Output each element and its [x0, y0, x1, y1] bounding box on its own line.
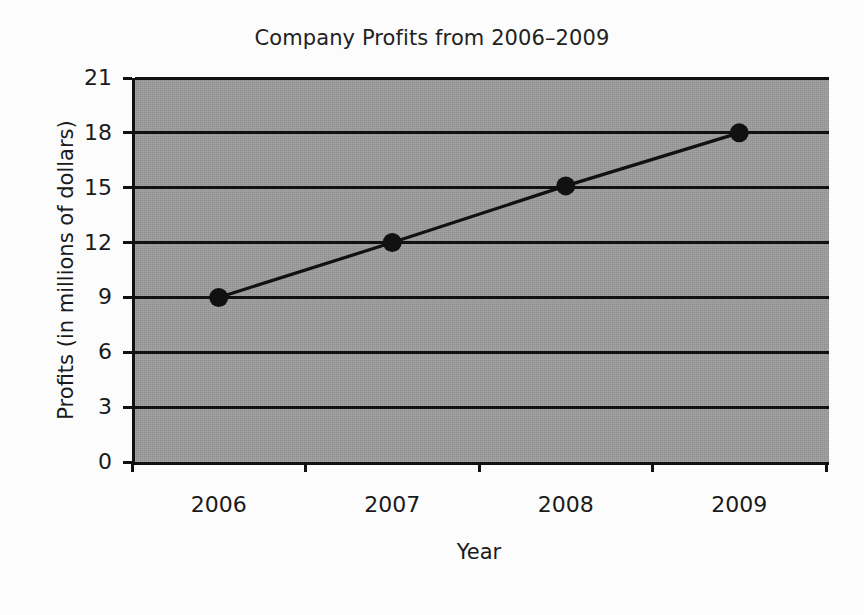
x-tick-mark: [131, 462, 134, 472]
y-tick-mark: [123, 241, 132, 244]
chart-figure: Company Profits from 2006–2009 036912151…: [0, 0, 864, 615]
y-tick-mark: [123, 351, 132, 354]
y-tick-mark: [123, 296, 132, 299]
chart-title: Company Profits from 2006–2009: [0, 26, 864, 50]
y-tick-mark: [123, 186, 132, 189]
data-point-marker: [383, 233, 402, 252]
x-tick-mark: [825, 462, 828, 472]
x-tick-label: 2009: [679, 494, 799, 516]
x-axis-title: Year: [132, 540, 826, 564]
data-point-marker: [209, 288, 228, 307]
data-point-marker: [730, 123, 749, 142]
x-tick-label: 2007: [332, 494, 452, 516]
y-tick-mark: [123, 131, 132, 134]
x-tick-mark: [651, 462, 654, 472]
data-series-layer: [132, 78, 826, 462]
data-point-marker: [556, 176, 575, 195]
y-tick-mark: [123, 77, 132, 80]
profits-line: [219, 133, 740, 298]
x-tick-mark: [478, 462, 481, 472]
x-tick-label: 2006: [159, 494, 279, 516]
y-axis-title: Profits (in millions of dollars): [54, 70, 78, 470]
x-tick-mark: [304, 462, 307, 472]
y-tick-mark: [123, 406, 132, 409]
x-tick-label: 2008: [506, 494, 626, 516]
